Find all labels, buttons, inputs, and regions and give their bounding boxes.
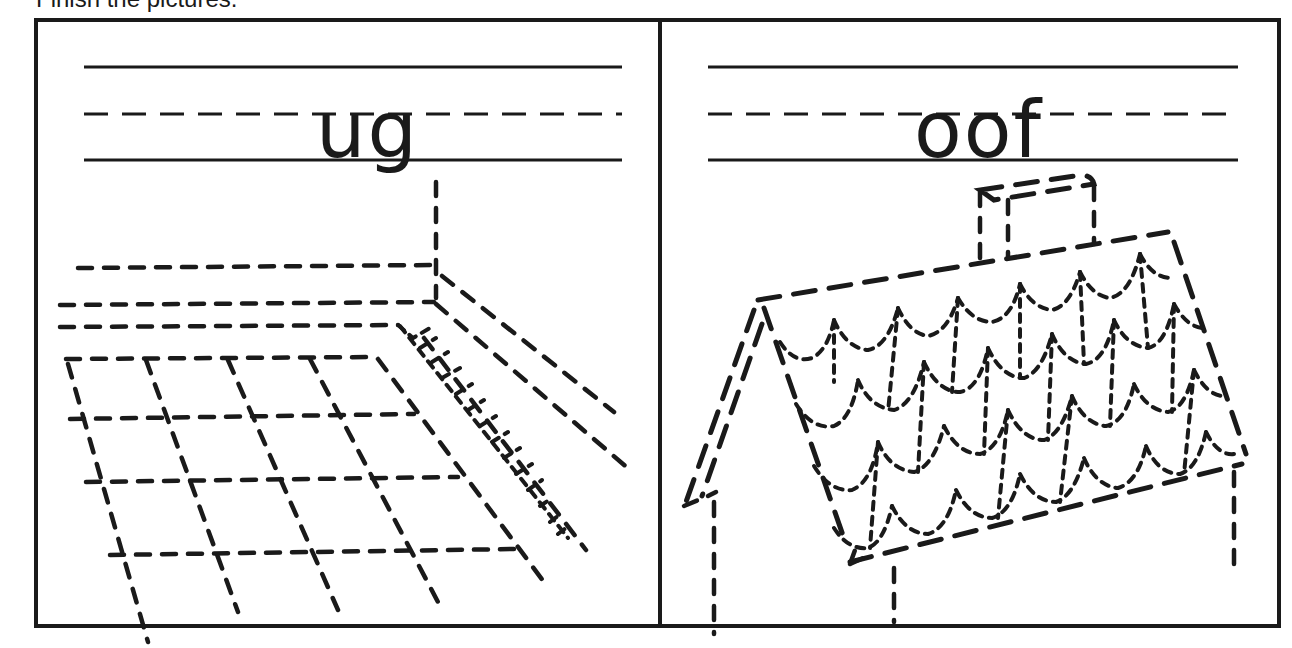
panel-rug: ug: [38, 22, 658, 624]
worksheet-instruction: Finish the pictures.: [36, 0, 237, 11]
worksheet-frame: ug: [34, 18, 1281, 628]
roof-tracing-icon[interactable]: [662, 22, 1277, 624]
rug-tracing-icon[interactable]: [38, 22, 658, 624]
panel-roof: oof: [662, 22, 1277, 624]
